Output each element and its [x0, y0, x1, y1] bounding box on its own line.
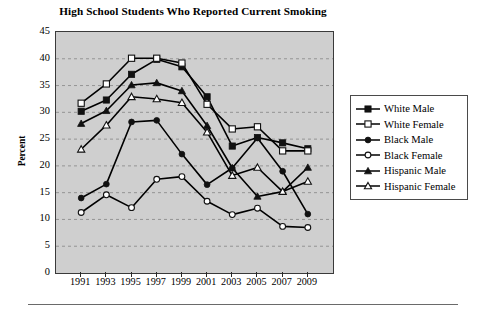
x-axis-tick-mark [131, 272, 132, 277]
x-axis-tick-mark [181, 272, 182, 277]
legend-item-hispanic-female[interactable]: Hispanic Female [355, 179, 462, 195]
y-axis-tick-label: 5 [28, 240, 50, 250]
y-axis-tick-label: 0 [28, 267, 50, 277]
x-axis-tick-mark [206, 272, 207, 277]
legend-item-hispanic-male[interactable]: Hispanic Male [355, 163, 462, 179]
legend-label: Hispanic Male [381, 164, 446, 177]
y-axis-tick-label: 40 [28, 53, 50, 63]
legend-marker-open-square-icon [355, 117, 381, 131]
y-axis-tick-label: 45 [28, 26, 50, 36]
legend-marker-open-circle-icon [355, 148, 381, 162]
x-axis-tick-labels: 1991199319951997199920012003200520072009 [55, 276, 332, 292]
x-axis-tick-mark [256, 272, 257, 277]
chart-legend: White MaleWhite FemaleBlack MaleBlack Fe… [350, 95, 468, 200]
data-series [81, 58, 308, 151]
y-axis-tick-label: 15 [28, 187, 50, 197]
legend-item-white-female[interactable]: White Female [355, 117, 462, 133]
data-series [81, 83, 308, 197]
plot-area [55, 31, 334, 274]
legend-label: Black Female [381, 149, 443, 162]
legend-item-white-male[interactable]: White Male [355, 101, 462, 117]
data-series [81, 59, 308, 148]
chart-figure: High School Students Who Reported Curren… [0, 0, 482, 316]
x-axis-tick-mark [307, 272, 308, 277]
legend-marker-open-triangle-icon [355, 179, 381, 193]
chart-title: High School Students Who Reported Curren… [48, 5, 338, 18]
y-axis-tick-label: 25 [28, 133, 50, 143]
legend-label: Hispanic Female [381, 180, 456, 193]
y-axis-tick-label: 20 [28, 160, 50, 170]
x-axis-tick-mark [282, 272, 283, 277]
footer-divider [28, 304, 458, 305]
data-series-layer [56, 32, 333, 273]
y-axis-tick-label: 30 [28, 106, 50, 116]
legend-marker-filled-triangle-icon [355, 164, 381, 178]
legend-label: White Male [381, 102, 434, 115]
x-axis-tick-mark [80, 272, 81, 277]
x-axis-tick-mark [231, 272, 232, 277]
data-series [81, 97, 308, 192]
data-markers [78, 79, 312, 199]
x-axis-tick-label: 2009 [287, 276, 327, 287]
y-axis-tick-labels: 051015202530354045 [24, 31, 50, 272]
legend-item-black-female[interactable]: Black Female [355, 148, 462, 164]
legend-label: Black Male [381, 133, 433, 146]
y-axis-tick-label: 10 [28, 213, 50, 223]
legend-marker-filled-square-icon [355, 102, 381, 116]
x-axis-tick-mark [105, 272, 106, 277]
x-axis-tick-mark [156, 272, 157, 277]
y-axis-tick-label: 35 [28, 80, 50, 90]
legend-label: White Female [381, 118, 444, 131]
legend-marker-filled-circle-icon [355, 133, 381, 147]
legend-item-black-male[interactable]: Black Male [355, 132, 462, 148]
